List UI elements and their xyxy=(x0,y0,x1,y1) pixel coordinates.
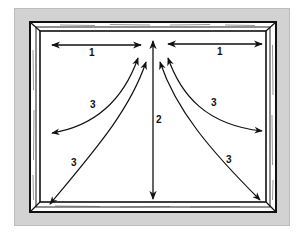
label-1-right: 1 xyxy=(217,46,223,57)
label-3-left-outer: 3 xyxy=(71,157,77,168)
label-3-right-inner: 3 xyxy=(211,97,217,108)
label-3-left-inner: 3 xyxy=(90,99,96,110)
label-3-right-outer: 3 xyxy=(226,154,232,165)
label-2: 2 xyxy=(156,114,162,125)
frame-diagram: 1 1 2 3 3 3 3 xyxy=(0,0,306,244)
label-1-left: 1 xyxy=(89,47,95,58)
